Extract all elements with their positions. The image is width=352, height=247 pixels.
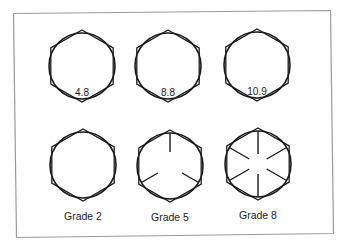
bolt-heads-group: 4.88.810.9Grade 2Grade 5Grade 8 [49,29,291,223]
sae-bolt-head-grade-2: Grade 2 [50,129,116,222]
diagram-canvas: 4.88.810.9Grade 2Grade 5Grade 8 [0,0,352,247]
grade-radial-mark [267,148,287,160]
grade-radial-mark [267,169,287,181]
grade-radial-mark [229,169,249,181]
metric-bolt-head-10-9: 10.9 [224,29,290,101]
washer-circle [50,132,116,198]
sae-bolt-head-grade-5: Grade 5 [137,130,203,223]
grade-radial-mark [182,173,199,183]
metric-bolt-head-4-8: 4.8 [49,30,115,102]
property-class-label: 8.8 [161,87,175,98]
property-class-label: 10.9 [247,86,267,97]
grade-label: Grade 5 [151,211,189,223]
sae-bolt-head-grade-8: Grade 8 [225,128,291,221]
grade-radial-mark [141,173,158,183]
grade-radial-mark [229,148,249,160]
diagram-frame [14,11,334,238]
grade-label: Grade 8 [239,209,277,221]
bolt-grade-diagram: 4.88.810.9Grade 2Grade 5Grade 8 [0,0,352,247]
grade-label: Grade 2 [64,210,102,222]
property-class-label: 4.8 [75,87,89,98]
metric-bolt-head-8-8: 8.8 [135,30,201,102]
